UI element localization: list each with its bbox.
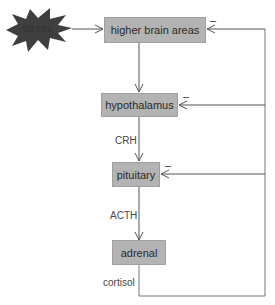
edge-label-crh: CRH	[115, 135, 137, 146]
node-hypothalamus: hypothalamus	[101, 93, 178, 117]
node-higher-label: higher brain areas	[111, 24, 200, 36]
node-pituitary-label: pituitary	[117, 169, 156, 181]
inhibition-sign-hypothalamus: –	[183, 92, 189, 100]
node-adrenal-label: adrenal	[121, 247, 158, 259]
edge-label-cortisol: cortisol	[103, 277, 135, 288]
stress-label: stress	[23, 22, 52, 34]
node-adrenal: adrenal	[112, 240, 166, 265]
inhibition-sign-pituitary: –	[165, 161, 171, 169]
node-hypothalamus-label: hypothalamus	[105, 99, 174, 111]
node-pituitary: pituitary	[112, 162, 160, 187]
edge-label-acth: ACTH	[110, 210, 137, 221]
node-higher-brain-areas: higher brain areas	[104, 17, 206, 43]
inhibition-sign-higher: –	[210, 16, 216, 24]
